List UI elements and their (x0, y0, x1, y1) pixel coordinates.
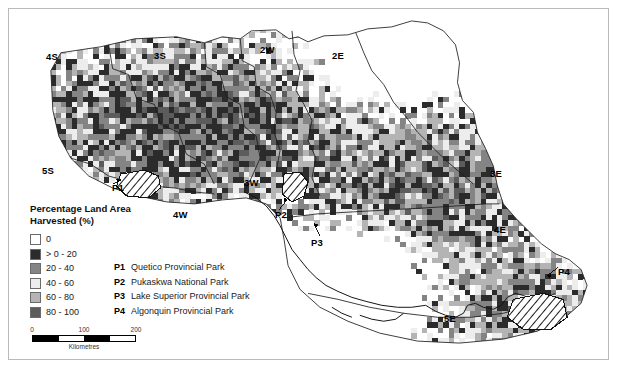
raster-cell (481, 285, 487, 291)
raster-cell (169, 177, 175, 183)
raster-cell (174, 118, 180, 124)
raster-cell (470, 269, 476, 275)
raster-cell (438, 322, 444, 328)
raster-cell (411, 113, 417, 119)
raster-cell (287, 156, 293, 162)
raster-cell (131, 140, 137, 146)
raster-cell (336, 188, 342, 194)
raster-cell (72, 64, 78, 70)
raster-cell (228, 48, 234, 54)
raster-cell (443, 285, 449, 291)
raster-cell (109, 91, 115, 97)
raster-cell (325, 204, 331, 210)
raster-cell (465, 311, 471, 317)
raster-cell (432, 301, 438, 307)
raster-cell (287, 140, 293, 146)
raster-cell (427, 226, 433, 232)
raster-cell (373, 91, 379, 97)
raster-cell (319, 129, 325, 135)
raster-cell (395, 161, 401, 167)
raster-cell (201, 124, 207, 130)
raster-cell (260, 172, 266, 178)
raster-cell (459, 242, 465, 248)
raster-cell (72, 129, 78, 135)
raster-cell (169, 134, 175, 140)
raster-cell (572, 290, 578, 296)
raster-cell (72, 59, 78, 65)
raster-cell (475, 258, 481, 264)
raster-cell (432, 285, 438, 291)
raster-cell (352, 167, 358, 173)
raster-cell (179, 75, 185, 81)
raster-cell (513, 226, 519, 232)
raster-cell (470, 247, 476, 253)
raster-cell (341, 183, 347, 189)
raster-cell (325, 199, 331, 205)
raster-cell (147, 54, 153, 60)
raster-cell (497, 274, 503, 280)
raster-cell (276, 172, 282, 178)
raster-cell (389, 134, 395, 140)
raster-cell (163, 102, 169, 108)
raster-cell (454, 274, 460, 280)
park-label-P1: P1 (112, 183, 124, 193)
raster-cell (449, 145, 455, 151)
raster-cell (185, 167, 191, 173)
raster-cell (266, 64, 272, 70)
raster-cell (336, 150, 342, 156)
raster-cell (470, 215, 476, 221)
raster-cell (443, 150, 449, 156)
raster-cell (379, 215, 385, 221)
raster-cell (266, 134, 272, 140)
raster-cell (196, 75, 202, 81)
raster-cell (465, 193, 471, 199)
raster-cell (72, 70, 78, 76)
scale-tick-labels: 0100200 (32, 326, 136, 335)
raster-cell (497, 236, 503, 242)
raster-cell (427, 102, 433, 108)
raster-cell (292, 209, 298, 215)
raster-cell (153, 38, 159, 44)
raster-cell (362, 150, 368, 156)
raster-cell (153, 129, 159, 135)
raster-cell (228, 183, 234, 189)
raster-cell (255, 91, 261, 97)
raster-cell (475, 226, 481, 232)
raster-cell (233, 48, 239, 54)
raster-cell (432, 247, 438, 253)
raster-cell (438, 140, 444, 146)
raster-cell (239, 97, 245, 103)
raster-cell (389, 161, 395, 167)
raster-cell (438, 172, 444, 178)
raster-cell (443, 124, 449, 130)
raster-cell (147, 156, 153, 162)
raster-cell (303, 70, 309, 76)
raster-cell (61, 118, 67, 124)
raster-cell (405, 193, 411, 199)
raster-cell (572, 301, 578, 307)
raster-cell (438, 167, 444, 173)
raster-cell (357, 156, 363, 162)
raster-cell (411, 242, 417, 248)
raster-cell (163, 193, 169, 199)
raster-cell (120, 129, 126, 135)
raster-cell (239, 161, 245, 167)
raster-cell (276, 183, 282, 189)
raster-cell (459, 258, 465, 264)
raster-cell (201, 145, 207, 151)
raster-cell (233, 81, 239, 87)
raster-cell (529, 247, 535, 253)
raster-cell (411, 193, 417, 199)
raster-cell (475, 150, 481, 156)
raster-cell (179, 183, 185, 189)
raster-cell (115, 81, 121, 87)
scale-tick-label: 200 (131, 326, 142, 333)
raster-cell (524, 263, 530, 269)
raster-cell (411, 247, 417, 253)
raster-cell (389, 113, 395, 119)
raster-cell (212, 91, 218, 97)
raster-cell (292, 97, 298, 103)
raster-cell (266, 177, 272, 183)
raster-cell (336, 140, 342, 146)
raster-cell (136, 70, 142, 76)
